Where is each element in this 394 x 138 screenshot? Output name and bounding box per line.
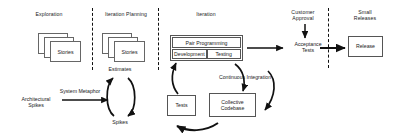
- node-acceptance-tests: Acceptance Tests: [286, 41, 330, 54]
- pair-programming-box: Pair Programming Development Testing: [170, 35, 243, 61]
- development-label: Development: [174, 51, 205, 57]
- edge-label-continuous-integration: Continuous Integration: [205, 74, 285, 80]
- edge-label-system-metaphor: System Metaphor: [52, 88, 108, 94]
- story-card-front-exploration: Stories: [50, 41, 81, 62]
- arrow-tests-to-pair-programming: [172, 63, 178, 94]
- release-label: Release: [356, 43, 375, 49]
- testing-cell: Testing: [207, 49, 241, 58]
- node-architectural-spikes: Architectural Spikes: [12, 96, 60, 109]
- separator-approval-releases: [328, 8, 329, 68]
- pair-programming-row: Development Testing: [172, 49, 241, 58]
- story-card-front-planning: Stories: [114, 41, 145, 62]
- story-card-label: Stories: [57, 49, 73, 55]
- phase-label-small-releases: Small Releases: [344, 9, 386, 22]
- development-cell: Development: [172, 49, 206, 58]
- phase-label-customer-approval: Customer Approval: [283, 9, 323, 22]
- xp-process-diagram: Exploration Iteration Planning Iteration…: [0, 0, 394, 138]
- collective-codebase-label: Collective Codebase: [210, 99, 255, 111]
- arrow-codebase-to-tests: [177, 123, 218, 130]
- pair-programming-header: Pair Programming: [172, 37, 241, 48]
- tests-box: Tests: [167, 95, 196, 116]
- node-estimates: Estimates: [100, 66, 140, 72]
- tests-label: Tests: [175, 102, 187, 108]
- arrows-overlay: [0, 0, 394, 138]
- separator-exploration-planning: [92, 8, 93, 70]
- separator-planning-iteration: [158, 8, 159, 70]
- phase-label-exploration: Exploration: [18, 11, 80, 17]
- arrow-estimates-to-spikes: [128, 78, 135, 116]
- node-spikes: Spikes: [102, 119, 138, 125]
- story-card-label: Stories: [121, 49, 137, 55]
- arrow-spikes-to-estimates: [107, 78, 114, 116]
- phase-label-iteration: Iteration: [172, 11, 240, 17]
- pair-programming-label: Pair Programming: [186, 40, 228, 46]
- phase-label-iteration-planning: Iteration Planning: [96, 11, 156, 17]
- collective-codebase-box: Collective Codebase: [209, 93, 256, 117]
- testing-label: Testing: [215, 51, 231, 57]
- release-box: Release: [348, 36, 383, 57]
